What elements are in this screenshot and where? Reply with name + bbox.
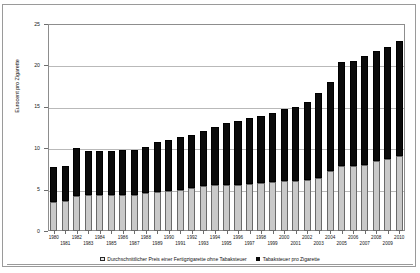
x-tick-mark bbox=[227, 231, 228, 234]
bar-segment-price bbox=[154, 192, 161, 231]
bar-segment-tax bbox=[131, 150, 138, 195]
bar-segment-tax bbox=[234, 121, 241, 185]
bar-segment-price bbox=[361, 165, 368, 231]
x-tick-label: 1989 bbox=[152, 241, 162, 246]
x-tick-label: 1994 bbox=[210, 235, 220, 240]
x-tick-mark bbox=[180, 231, 181, 234]
x-tick-mark bbox=[342, 231, 343, 234]
bar-segment-price bbox=[223, 185, 230, 231]
x-tick-label: 1985 bbox=[106, 241, 116, 246]
bar-segment-tax bbox=[292, 107, 299, 182]
bar-column[interactable] bbox=[257, 24, 264, 231]
bar-column[interactable] bbox=[304, 24, 311, 231]
bar-column[interactable] bbox=[373, 24, 380, 231]
price-swatch-icon bbox=[100, 257, 105, 262]
bar-segment-price bbox=[327, 171, 334, 231]
x-tick-label: 1996 bbox=[233, 235, 243, 240]
x-tick-label: 1999 bbox=[267, 241, 277, 246]
bar-column[interactable] bbox=[50, 24, 57, 231]
bar-segment-price bbox=[211, 185, 218, 231]
y-tick-label: 25 bbox=[34, 22, 40, 27]
bar-segment-tax bbox=[396, 41, 403, 157]
bar-column[interactable] bbox=[384, 24, 391, 231]
bar-segment-tax bbox=[361, 56, 368, 164]
y-tick-label: 0 bbox=[37, 229, 40, 234]
bar-column[interactable] bbox=[188, 24, 195, 231]
x-tick-label: 2007 bbox=[360, 241, 370, 246]
x-tick-label: 1991 bbox=[175, 241, 185, 246]
x-tick-label: 1988 bbox=[141, 235, 151, 240]
bar-column[interactable] bbox=[292, 24, 299, 231]
bar-column[interactable] bbox=[119, 24, 126, 231]
bar-column[interactable] bbox=[96, 24, 103, 231]
x-tick-mark bbox=[157, 231, 158, 234]
bar-column[interactable] bbox=[73, 24, 80, 231]
bar-segment-price bbox=[50, 202, 57, 231]
bar-column[interactable] bbox=[361, 24, 368, 231]
bar-column[interactable] bbox=[142, 24, 149, 231]
bar-column[interactable] bbox=[246, 24, 253, 231]
x-tick-label: 1990 bbox=[164, 235, 174, 240]
x-tick-label: 2001 bbox=[290, 241, 300, 246]
bar-column[interactable] bbox=[234, 24, 241, 231]
bar-column[interactable] bbox=[165, 24, 172, 231]
legend-item-price: Durchschnittlicher Preis einer Fertigzig… bbox=[100, 256, 247, 262]
x-tick-mark bbox=[203, 231, 204, 234]
x-tick-label: 1995 bbox=[221, 241, 231, 246]
bar-column[interactable] bbox=[177, 24, 184, 231]
x-tick-label: 1992 bbox=[187, 235, 197, 240]
bar-segment-tax bbox=[338, 62, 345, 166]
bar-segment-tax bbox=[211, 127, 218, 186]
y-tick-label: 20 bbox=[34, 63, 40, 68]
x-tick-label: 2008 bbox=[371, 235, 381, 240]
x-tick-label: 1981 bbox=[60, 241, 70, 246]
bar-segment-tax bbox=[384, 47, 391, 159]
bar-column[interactable] bbox=[327, 24, 334, 231]
legend-divider bbox=[7, 264, 413, 265]
bar-column[interactable] bbox=[223, 24, 230, 231]
bar-column[interactable] bbox=[281, 24, 288, 231]
bar-column[interactable] bbox=[315, 24, 322, 231]
x-tick-label: 1982 bbox=[72, 235, 82, 240]
bar-column[interactable] bbox=[350, 24, 357, 231]
x-tick-mark bbox=[319, 231, 320, 234]
bar-segment-price bbox=[85, 195, 92, 231]
bar-segment-price bbox=[269, 182, 276, 231]
bar-segment-price bbox=[350, 166, 357, 231]
bar-segment-price bbox=[315, 178, 322, 231]
bar-segment-price bbox=[384, 159, 391, 231]
y-tick-label: 5 bbox=[37, 187, 40, 192]
x-tick-mark bbox=[365, 231, 366, 234]
x-tick-label: 2009 bbox=[383, 241, 393, 246]
bar-segment-tax bbox=[327, 82, 334, 171]
bar-column[interactable] bbox=[211, 24, 218, 231]
x-tick-label: 2002 bbox=[302, 235, 312, 240]
x-tick-mark bbox=[296, 231, 297, 234]
x-tick-label: 1997 bbox=[244, 241, 254, 246]
bar-segment-tax bbox=[350, 61, 357, 165]
x-tick-mark bbox=[88, 231, 89, 234]
bar-segment-price bbox=[73, 196, 80, 231]
bar-column[interactable] bbox=[108, 24, 115, 231]
bar-column[interactable] bbox=[269, 24, 276, 231]
bar-segment-tax bbox=[119, 150, 126, 195]
bar-segment-price bbox=[338, 166, 345, 231]
bar-column[interactable] bbox=[154, 24, 161, 231]
bar-segment-price bbox=[96, 195, 103, 231]
bar-segment-tax bbox=[154, 142, 161, 192]
x-tick-mark bbox=[388, 231, 389, 234]
bar-column[interactable] bbox=[85, 24, 92, 231]
tax-swatch-icon bbox=[256, 257, 261, 262]
y-axis: Eurocent pro Zigarette 0510152025 bbox=[3, 5, 48, 237]
bar-column[interactable] bbox=[62, 24, 69, 231]
x-tick-label: 2005 bbox=[337, 241, 347, 246]
bar-segment-tax bbox=[188, 135, 195, 188]
bar-column[interactable] bbox=[338, 24, 345, 231]
legend-label-tax: Tabaksteuer pro Zigarette bbox=[263, 256, 320, 262]
x-tick-label: 2000 bbox=[279, 235, 289, 240]
y-tick-label: 10 bbox=[34, 146, 40, 151]
bar-column[interactable] bbox=[200, 24, 207, 231]
bar-segment-tax bbox=[96, 151, 103, 196]
bar-column[interactable] bbox=[396, 24, 403, 231]
bar-column[interactable] bbox=[131, 24, 138, 231]
